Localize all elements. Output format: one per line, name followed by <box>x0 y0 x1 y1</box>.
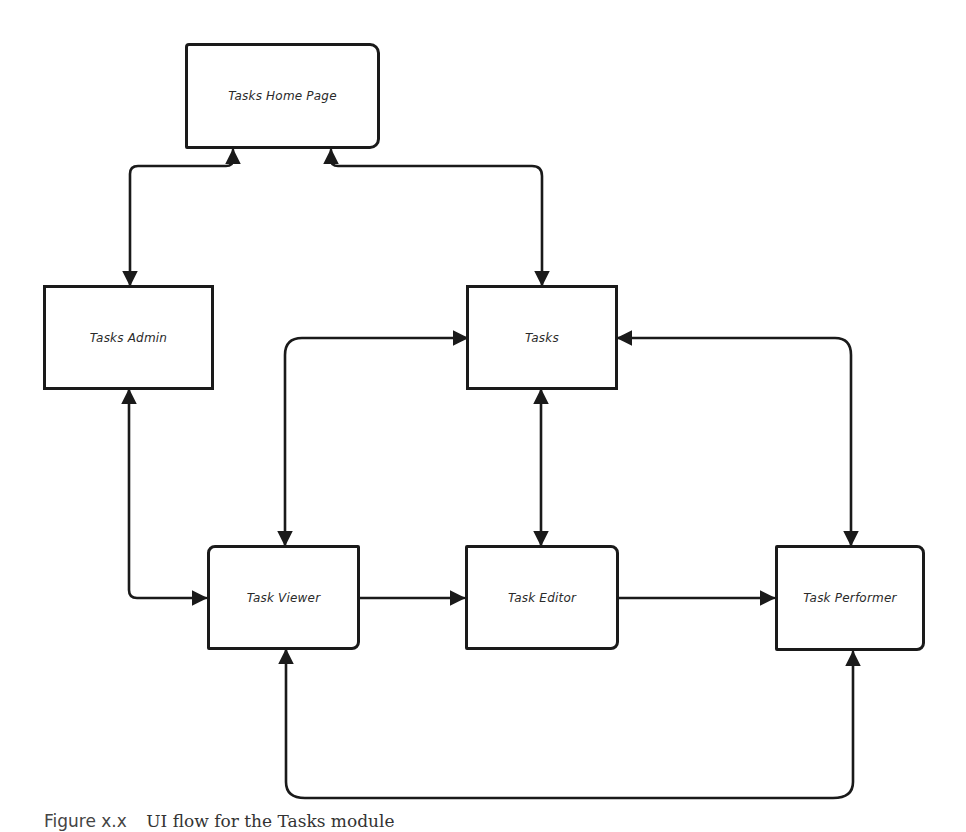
node-task-performer: Task Performer <box>775 545 925 651</box>
edge-tasks-performer <box>618 338 851 545</box>
node-label: Task Performer <box>803 591 896 605</box>
node-label: Task Viewer <box>247 591 321 605</box>
edge-admin-viewer <box>129 390 206 598</box>
figure-caption-text: UI flow for the Tasks module <box>146 811 394 831</box>
node-label: Task Editor <box>508 591 576 605</box>
figure-number: Figure x.x <box>44 811 127 831</box>
flow-connectors <box>0 0 966 832</box>
edge-home-tasks <box>331 150 542 285</box>
node-label: Tasks Admin <box>90 331 167 345</box>
node-task-editor: Task Editor <box>465 545 619 650</box>
node-tasks: Tasks <box>466 285 618 390</box>
edge-home-admin <box>130 150 233 285</box>
edge-viewer-performer <box>286 650 853 798</box>
figure-caption: Figure x.x UI flow for the Tasks module <box>44 811 395 831</box>
edge-tasks-viewer <box>285 338 467 545</box>
node-tasks-home-page: Tasks Home Page <box>185 43 380 149</box>
node-tasks-admin: Tasks Admin <box>43 285 214 390</box>
node-label: Tasks <box>525 331 559 345</box>
node-label: Tasks Home Page <box>228 89 337 103</box>
node-task-viewer: Task Viewer <box>207 545 360 650</box>
